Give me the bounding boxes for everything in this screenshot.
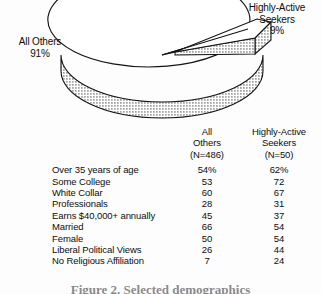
table-row: Some College 53 72 xyxy=(52,176,318,187)
table-cell-seekers: 54 xyxy=(240,221,318,232)
table-header-seekers: Highly-Active Seekers (N=50) xyxy=(240,126,318,160)
table-header-seekers-n: (N=50) xyxy=(240,149,318,160)
table-row-label: No Religious Affiliation xyxy=(52,255,174,266)
table-row-label: Female xyxy=(52,233,174,244)
table-row-label: Professionals xyxy=(52,198,174,209)
table-cell-seekers: 44 xyxy=(240,244,318,255)
table-cell-all-others: 54% xyxy=(174,160,240,175)
pie-label-seekers-name-line2: Seekers xyxy=(234,14,320,26)
demographics-table: All Others (N=486) Highly-Active Seekers… xyxy=(52,126,318,267)
table-header-all-others-n: (N=486) xyxy=(174,149,240,160)
table-header-all-others: All Others (N=486) xyxy=(174,126,240,160)
table-cell-all-others: 60 xyxy=(174,187,240,198)
table-header-row-label xyxy=(52,126,174,160)
table-row: White Collar 60 67 xyxy=(52,187,318,198)
table-cell-seekers: 31 xyxy=(240,198,318,209)
table-cell-all-others: 50 xyxy=(174,233,240,244)
table-cell-all-others: 45 xyxy=(174,210,240,221)
table-row: Earns $40,000+ annually 45 37 xyxy=(52,210,318,221)
table-cell-seekers: 62% xyxy=(240,160,318,175)
table-cell-all-others: 26 xyxy=(174,244,240,255)
table-row-label: Over 35 years of age xyxy=(52,160,174,175)
figure-caption: Figure 2. Selected demographics xyxy=(0,283,321,294)
table-cell-seekers: 37 xyxy=(240,210,318,221)
table-row: No Religious Affiliation 7 24 xyxy=(52,255,318,266)
pie-chart: All Others 91% Highly-Active Seekers 9% xyxy=(0,0,321,122)
table-row: Professionals 28 31 xyxy=(52,198,318,209)
table-header-all-others-line2: Others xyxy=(174,137,240,148)
table-cell-all-others: 7 xyxy=(174,255,240,266)
table-row: Female 50 54 xyxy=(52,233,318,244)
table-row-label: White Collar xyxy=(52,187,174,198)
table-cell-seekers: 24 xyxy=(240,255,318,266)
demographics-table-wrapper: All Others (N=486) Highly-Active Seekers… xyxy=(0,126,321,281)
table-header-row: All Others (N=486) Highly-Active Seekers… xyxy=(52,126,318,160)
table-row-label: Married xyxy=(52,221,174,232)
table-cell-seekers: 54 xyxy=(240,233,318,244)
table-cell-all-others: 66 xyxy=(174,221,240,232)
table-cell-seekers: 67 xyxy=(240,187,318,198)
table-row: Liberal Political Views 26 44 xyxy=(52,244,318,255)
table-row-label: Earns $40,000+ annually xyxy=(52,210,174,221)
table-header-seekers-line1: Highly-Active xyxy=(240,126,318,137)
pie-label-all-others-value: 91% xyxy=(2,48,78,60)
table-body: Over 35 years of age 54% 62% Some Colleg… xyxy=(52,160,318,267)
table-header: All Others (N=486) Highly-Active Seekers… xyxy=(52,126,318,160)
table-row: Over 35 years of age 54% 62% xyxy=(52,160,318,175)
table-header-all-others-line1: All xyxy=(174,126,240,137)
table-row-label: Liberal Political Views xyxy=(52,244,174,255)
pie-label-all-others-name: All Others xyxy=(2,36,78,48)
pie-label-all-others: All Others 91% xyxy=(2,36,78,59)
table-row-label: Some College xyxy=(52,176,174,187)
pie-label-seekers-value: 9% xyxy=(234,25,320,37)
table-header-seekers-line2: Seekers xyxy=(240,137,318,148)
figure-container: All Others 91% Highly-Active Seekers 9% … xyxy=(0,0,321,294)
pie-label-seekers: Highly-Active Seekers 9% xyxy=(234,2,320,37)
table-row: Married 66 54 xyxy=(52,221,318,232)
table-cell-all-others: 53 xyxy=(174,176,240,187)
pie-label-seekers-name-line1: Highly-Active xyxy=(234,2,320,14)
table-cell-all-others: 28 xyxy=(174,198,240,209)
table-cell-seekers: 72 xyxy=(240,176,318,187)
